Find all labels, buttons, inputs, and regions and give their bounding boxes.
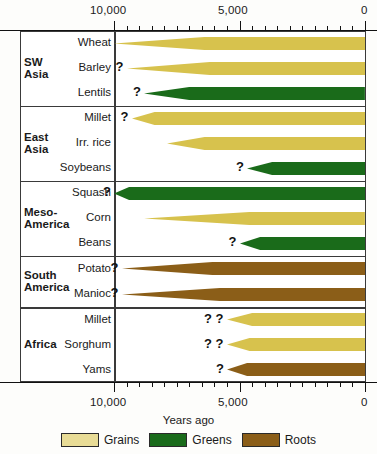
top-tick-label-0: 0 [361,4,368,16]
x-axis-title: Years ago [0,414,377,426]
plot-frame [20,31,366,382]
axis-tick-5000 [240,382,241,392]
legend-swatch-greens [149,433,187,447]
axis-tick-7500 [177,382,178,387]
legend-item-roots[interactable]: Roots [242,433,316,447]
bottom-axis-labels: 10,000 5,000 0 [0,396,377,412]
group-divider-1 [20,181,366,183]
crop-label-corn: Corn [86,211,111,223]
axis-tick-9500 [127,382,128,387]
axis-tick-6000 [214,382,215,387]
bar-corn [144,212,365,225]
top-axis-ruler [0,20,377,31]
bar-wheat [114,37,365,50]
bar-squash [114,187,365,200]
axis-tick-500 [352,382,353,387]
uncertainty-marker-potato: ? [111,260,119,275]
bar-potato [122,262,365,275]
bar-beans [240,237,366,250]
axis-tick-3500 [277,382,278,387]
region-label-eastasia: East Asia [24,131,48,156]
axis-tick-3000 [290,382,291,387]
uncertainty-marker-beans: ? [229,234,237,249]
uncertainty-marker-millet: ? ? [204,311,224,326]
crop-label-sorghum: Sorghum [64,338,111,350]
bottom-axis-ruler [0,382,377,393]
legend-label-roots: Roots [285,433,316,447]
uncertainty-marker-sorghum: ? ? [204,336,224,351]
uncertainty-marker-barley: ? [116,59,124,74]
bottom-tick-label-5000: 5,000 [218,396,248,408]
axis-tick-0 [365,21,366,31]
top-tick-label-10000: 10,000 [90,4,126,16]
bar-millet [227,313,365,326]
top-tick-label-5000: 5,000 [218,4,248,16]
axis-tick-8000 [164,382,165,387]
crop-label-soybeans: Soybeans [60,161,111,173]
uncertainty-marker-millet: ? [121,109,129,124]
uncertainty-marker-lentils: ? [133,84,141,99]
bar-irrrice [167,137,365,150]
group-divider-2 [20,256,366,258]
crop-label-millet: Millet [84,313,111,325]
chart-legend: GrainsGreensRoots [0,430,377,450]
bar-manioc [122,288,365,301]
legend-label-greens: Greens [192,433,231,447]
axis-tick-4000 [265,382,266,387]
bar-yams [227,363,365,376]
axis-tick-8500 [152,382,153,387]
region-label-africa: Africa [24,338,57,351]
crop-label-potato: Potato [78,262,111,274]
region-label-southamerica: South America [24,269,69,294]
bar-lentils [144,87,365,100]
top-axis-labels: 10,000 5,000 0 [0,4,377,20]
bar-sorghum [227,338,365,351]
crop-label-lentils: Lentils [78,86,111,98]
legend-swatch-roots [242,433,280,447]
bar-barley [127,62,365,75]
bottom-tick-label-0: 0 [361,396,368,408]
axis-tick-4500 [252,382,253,387]
uncertainty-marker-yams: ? [216,361,224,376]
crop-label-barley: Barley [78,61,111,73]
axis-tick-0 [365,382,366,392]
region-label-mesoamerica: Meso- America [24,206,69,231]
legend-item-grains[interactable]: Grains [61,433,139,447]
bar-soybeans [247,162,365,175]
crop-label-millet: Millet [84,111,111,123]
axis-tick-1000 [340,382,341,387]
bottom-tick-label-10000: 10,000 [90,396,126,408]
crop-label-yams: Yams [82,363,111,375]
axis-tick-5500 [227,382,228,387]
group-divider-3 [20,307,366,309]
label-column-divider [114,31,116,382]
axis-tick-5000 [240,21,241,31]
axis-tick-7000 [189,382,190,387]
axis-tick-10000 [114,21,115,31]
crop-label-wheat: Wheat [78,36,111,48]
crop-label-irrrice: Irr. rice [76,136,111,148]
axis-tick-9000 [139,382,140,387]
legend-item-greens[interactable]: Greens [149,433,231,447]
group-divider-0 [20,106,366,108]
legend-label-grains: Grains [104,433,139,447]
bar-millet [132,112,365,125]
uncertainty-marker-manioc: ? [111,285,119,300]
uncertainty-marker-soybeans: ? [236,159,244,174]
domestication-timeline-chart: 10,000 5,000 0 SW AsiaWheatBarley?Lentil… [0,0,377,454]
axis-tick-2000 [315,382,316,387]
axis-tick-1500 [327,382,328,387]
uncertainty-marker-squash: ? [103,184,111,199]
axis-tick-2500 [302,382,303,387]
axis-tick-6500 [202,382,203,387]
region-label-swasia: SW Asia [24,56,48,81]
axis-tick-10000 [114,382,115,392]
legend-swatch-grains [61,433,99,447]
crop-label-manioc: Manioc [74,287,111,299]
crop-label-beans: Beans [78,236,111,248]
